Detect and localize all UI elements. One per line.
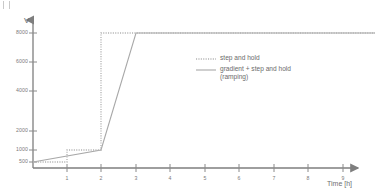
legend-swatch-solid-line-icon: [196, 68, 216, 76]
y-tick-label-500: 500: [6, 159, 28, 164]
y-axis-title: V: [24, 17, 29, 25]
x-tick-label-1: 1: [59, 176, 75, 181]
chart-legend: step and hold gradient + step and hold (…: [196, 54, 326, 84]
chart-container: V Time [h] 8000 6000 4000 2000 1000 500 …: [0, 0, 377, 194]
legend-label-step-and-hold: step and hold: [220, 54, 260, 63]
y-tick-label-4000: 4000: [6, 88, 28, 93]
x-tick-label-8: 8: [300, 176, 316, 181]
legend-label-gradient-step-and-hold: gradient + step and hold (ramping): [220, 65, 291, 82]
y-tick-label-6000: 6000: [6, 59, 28, 64]
x-tick-label-3: 3: [128, 176, 144, 181]
chart-plot-area: [0, 0, 377, 194]
y-tick-label-8000: 8000: [6, 30, 28, 35]
legend-swatch-dotted-line-icon: [196, 57, 216, 65]
series-line-gradient-step-and-hold: [33, 33, 375, 162]
legend-item-step-and-hold: step and hold: [196, 54, 326, 63]
x-tick-label-2: 2: [93, 176, 109, 181]
y-tick-label-2000: 2000: [6, 128, 28, 133]
series-line-step-and-hold: [33, 33, 375, 162]
legend-item-gradient-step-and-hold: gradient + step and hold (ramping): [196, 65, 326, 82]
x-tick-label-6: 6: [231, 176, 247, 181]
x-tick-label-5: 5: [197, 176, 213, 181]
x-tick-label-7: 7: [266, 176, 282, 181]
y-tick-label-1000: 1000: [6, 147, 28, 152]
x-tick-label-9: 9: [335, 176, 351, 181]
x-tick-label-4: 4: [162, 176, 178, 181]
